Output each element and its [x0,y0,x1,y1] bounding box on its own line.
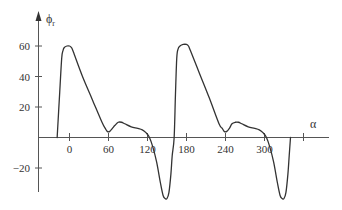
x-tick-label: 60 [103,143,115,155]
x-axis-label: α [310,117,317,131]
chart: 604020−20 ϕr 060120180240300 α [0,0,342,210]
y-axis: 604020−20 ϕr [13,11,56,192]
x-tick-label: 240 [217,143,234,155]
x-tick-label: 180 [178,143,195,155]
x-axis: 060120180240300 α [39,117,330,155]
y-tick-label: 60 [19,40,31,52]
phi-r-curve [57,44,290,199]
x-tick-label: 0 [67,143,73,155]
y-tick-label: 20 [19,101,31,113]
y-tick-label: 40 [19,71,31,83]
y-axis-label: ϕr [46,12,55,28]
y-tick-label: −20 [13,162,31,174]
y-axis-arrow-icon [36,11,42,21]
